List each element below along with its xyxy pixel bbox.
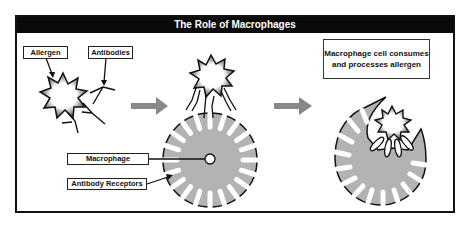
allergen-star-icon (40, 73, 87, 118)
process-arrow-2-icon (274, 97, 312, 115)
antibodies-label: Antibodies (88, 46, 133, 59)
macrophage-label: Macrophage (67, 153, 149, 165)
engulfed-allergen-star-icon (375, 106, 411, 140)
macrophage-cell-icon (163, 113, 257, 207)
caption-line-2: and processes allergen (324, 59, 429, 70)
antibody-receptors-label: Antibody Receptors (67, 178, 147, 190)
allergen-pointer-arrow (46, 58, 55, 78)
allergen-label: Allergen (23, 46, 68, 59)
diagram-artwork (0, 0, 467, 228)
nucleus-icon (205, 154, 215, 164)
process-arrow-1-icon (131, 97, 168, 115)
engulfing-macrophage-icon (335, 97, 426, 205)
caption-line-1: Macrophage cell consumes (324, 48, 429, 59)
antibodies-pointer-arrow (101, 58, 107, 86)
stage-3-caption: Macrophage cell consumes and processes a… (323, 39, 430, 79)
bound-allergen-star-icon (190, 55, 234, 97)
